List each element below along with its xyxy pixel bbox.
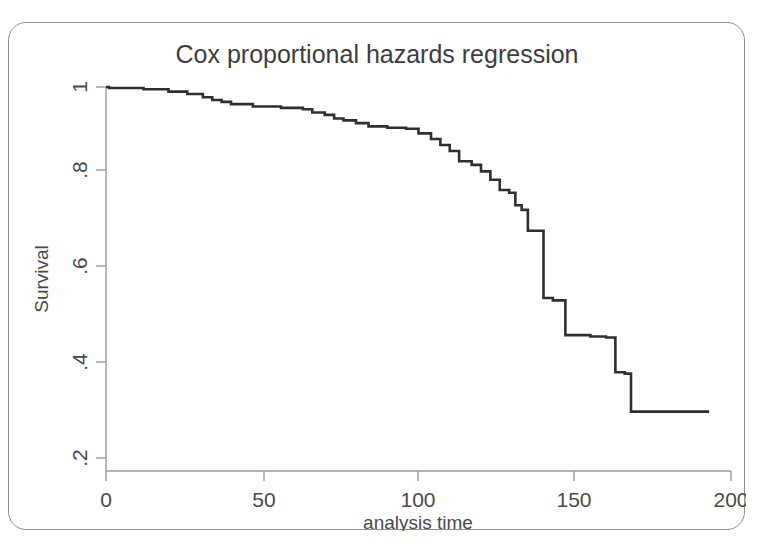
x-tick-label: 150 xyxy=(556,488,591,511)
survival-curve xyxy=(106,87,709,412)
y-tick-label: .6 xyxy=(68,257,91,275)
x-tick-label: 200 xyxy=(713,488,746,511)
y-tick-label: 1 xyxy=(68,81,91,93)
x-tick-label: 50 xyxy=(252,488,275,511)
x-tick-label: 0 xyxy=(100,488,112,511)
y-axis-title: Survival xyxy=(31,245,52,313)
figure-frame: Cox proportional hazards regression .2 .… xyxy=(8,22,745,530)
x-axis-tick-labels: 0 50 100 150 200 xyxy=(100,488,746,511)
survival-plot: Cox proportional hazards regression .2 .… xyxy=(9,23,746,531)
x-tick-label: 100 xyxy=(400,488,435,511)
y-axis-ticks xyxy=(96,87,106,458)
y-tick-label: .2 xyxy=(68,449,91,467)
x-axis-ticks xyxy=(106,471,731,481)
y-axis-tick-labels: .2 .4 .6 .8 1 xyxy=(68,81,91,467)
x-axis-title: analysis time xyxy=(363,512,473,531)
y-tick-label: .8 xyxy=(68,161,91,179)
y-tick-label: .4 xyxy=(68,353,91,371)
chart-title: Cox proportional hazards regression xyxy=(176,40,579,68)
